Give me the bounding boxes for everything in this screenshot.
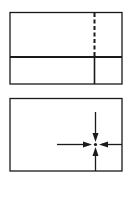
down-arrowhead-icon: [93, 133, 99, 142]
right-pointing-arrowhead-icon: [83, 142, 92, 148]
bottom-panel-frame: [10, 99, 122, 172]
diagram-canvas: [0, 0, 126, 197]
left-pointing-arrowhead-icon: [99, 142, 108, 148]
top-panel: [10, 13, 122, 85]
bottom-panel: [10, 99, 122, 172]
arrowheads: [83, 133, 108, 156]
center-point: [94, 143, 97, 146]
top-panel-frame: [10, 13, 122, 85]
up-arrowhead-icon: [93, 147, 99, 156]
